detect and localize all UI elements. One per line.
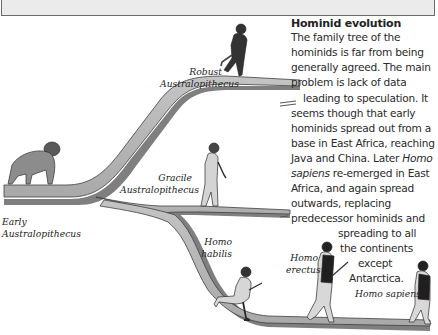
panel-line: leading to speculation. It xyxy=(303,92,428,104)
label-line: Homo xyxy=(286,252,318,264)
panel-line: Antarctica. xyxy=(349,272,404,284)
panel-text: re-emerged in East xyxy=(330,167,430,179)
panel-line: seems though that early xyxy=(291,107,415,119)
panel-text: Java and China. Later xyxy=(291,152,402,164)
panel-line: spreading to all xyxy=(338,227,416,239)
panel-line: the continents xyxy=(340,242,413,254)
panel-line: problem is lack of data xyxy=(291,76,406,88)
panel-line: base in East Africa, reaching xyxy=(291,137,435,149)
robust-australopithecus-figure xyxy=(221,24,247,76)
panel-line: predecessor hominids and xyxy=(291,212,425,224)
label-line: Australopithecus xyxy=(120,184,192,196)
label-gracile-australopithecus: Gracile Australopithecus xyxy=(120,172,192,196)
panel-italic-text: sapiens xyxy=(291,167,330,179)
label-line: erectus xyxy=(286,264,318,276)
gracile-australopithecus-figure xyxy=(201,143,226,206)
panel-line: outwards, replacing xyxy=(291,197,391,209)
label-early-australopithecus: Early Australopithecus xyxy=(2,216,81,240)
label-line: Australopithecus xyxy=(2,228,81,240)
panel-line: Africa, and again spread xyxy=(291,182,414,194)
panel-line: hominids spread out from a xyxy=(291,122,431,134)
panel-line: sapiens re-emerged in East xyxy=(291,167,430,179)
label-line: habilis xyxy=(196,248,232,260)
panel-line: Java and China. Later Homo xyxy=(291,152,433,164)
panel-title: Hominid evolution xyxy=(291,17,437,31)
label-line: Homo xyxy=(196,236,232,248)
panel-line: hominids is far from being xyxy=(291,46,424,58)
label-homo-sapiens: Homo sapiens xyxy=(355,288,421,300)
info-panel: Hominid evolution xyxy=(291,17,437,31)
label-line: Australopithecus xyxy=(160,78,222,90)
panel-line: except xyxy=(358,257,392,269)
label-homo-habilis: Homo habilis xyxy=(196,236,232,260)
label-robust-australopithecus: Robust Australopithecus xyxy=(160,66,222,90)
label-line: Robust xyxy=(160,66,222,78)
label-homo-erectus: Homo erectus xyxy=(286,252,318,276)
panel-line: generally agreed. The main xyxy=(291,61,431,73)
label-line: Early xyxy=(2,216,81,228)
early-australopithecus-figure xyxy=(8,142,60,184)
panel-line: The family tree of the xyxy=(291,31,400,43)
label-line: Gracile xyxy=(120,172,192,184)
panel-italic-text: Homo xyxy=(402,152,432,164)
